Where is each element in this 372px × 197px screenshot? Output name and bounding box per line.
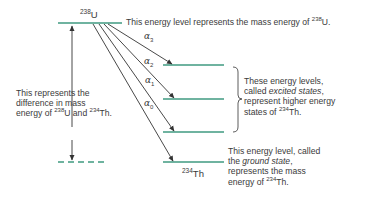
ground-state-annotation: This energy level, called the ground sta… — [228, 146, 320, 187]
alpha0-label: α0 — [144, 98, 153, 110]
u238-label: 238U — [80, 9, 98, 20]
alpha2-label: α2 — [144, 56, 153, 68]
u238-annotation: This energy level represents the mass en… — [126, 17, 330, 27]
mass-difference-annotation: This represents the difference in mass e… — [16, 88, 112, 119]
th234-label: 234Th — [182, 168, 204, 179]
alpha1-label: α1 — [145, 75, 154, 87]
alpha3-label: α3 — [144, 31, 153, 43]
alpha3-arrow — [108, 24, 172, 64]
excited-states-annotation: These energy levels, called excited stat… — [244, 76, 335, 117]
excited-states-brace — [233, 67, 242, 132]
